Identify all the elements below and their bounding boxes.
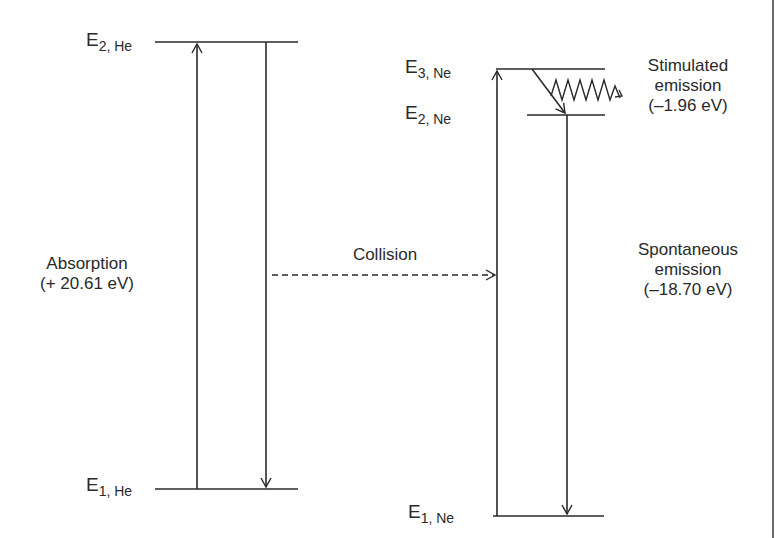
- stimulated-energy: (–1.96 eV): [618, 96, 758, 116]
- absorption-label: Absorption (+ 20.61 eV): [22, 254, 152, 294]
- absorption-title: Absorption: [22, 254, 152, 274]
- spontaneous-energy: (–18.70 eV): [608, 280, 768, 300]
- spontaneous-line1: Spontaneous: [608, 240, 768, 260]
- ne-e3-sub: 3, Ne: [418, 65, 451, 81]
- he-e2-label: E2, He: [86, 30, 132, 56]
- he-e2-sub: 2, He: [99, 38, 132, 54]
- he-e2-main: E: [86, 29, 99, 50]
- collision-label: Collision: [320, 245, 450, 265]
- he-e1-main: E: [86, 474, 99, 495]
- ne-e2-sub: 2, Ne: [418, 111, 451, 127]
- ne-e3-main: E: [405, 56, 418, 77]
- ne-e2-label: E2, Ne: [405, 103, 451, 129]
- ne-e1-main: E: [408, 501, 421, 522]
- ne-e3-label: E3, Ne: [405, 57, 451, 83]
- stimulated-line1: Stimulated: [618, 56, 758, 76]
- collision-text: Collision: [353, 245, 417, 264]
- ne-e1-label: E1, Ne: [408, 502, 454, 528]
- spontaneous-line2: emission: [608, 260, 768, 280]
- spontaneous-emission-label: Spontaneous emission (–18.70 eV): [608, 240, 768, 300]
- stimulated-emission-label: Stimulated emission (–1.96 eV): [618, 56, 758, 116]
- ne-e1-sub: 1, Ne: [421, 510, 454, 526]
- photon-wave-icon: [551, 80, 620, 100]
- he-e1-label: E1, He: [86, 475, 132, 501]
- absorption-energy: (+ 20.61 eV): [22, 274, 152, 294]
- stimulated-transition-arrow: [532, 69, 565, 113]
- he-e1-sub: 1, He: [99, 483, 132, 499]
- ne-e2-main: E: [405, 102, 418, 123]
- stimulated-line2: emission: [618, 76, 758, 96]
